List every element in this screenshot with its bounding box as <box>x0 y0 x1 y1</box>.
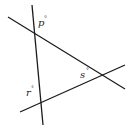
degree-symbol: ° <box>44 14 47 21</box>
line-c <box>20 65 125 112</box>
angle-label-p: p ° <box>38 14 47 28</box>
angle-letter-s: s <box>80 69 85 80</box>
degree-symbol: ° <box>86 66 89 73</box>
angle-label-r: r ° <box>26 84 34 98</box>
degree-symbol: ° <box>31 84 34 91</box>
triangle-diagram: p ° s ° r ° <box>0 0 133 129</box>
angle-label-s: s ° <box>80 66 89 80</box>
line-b <box>8 17 125 89</box>
